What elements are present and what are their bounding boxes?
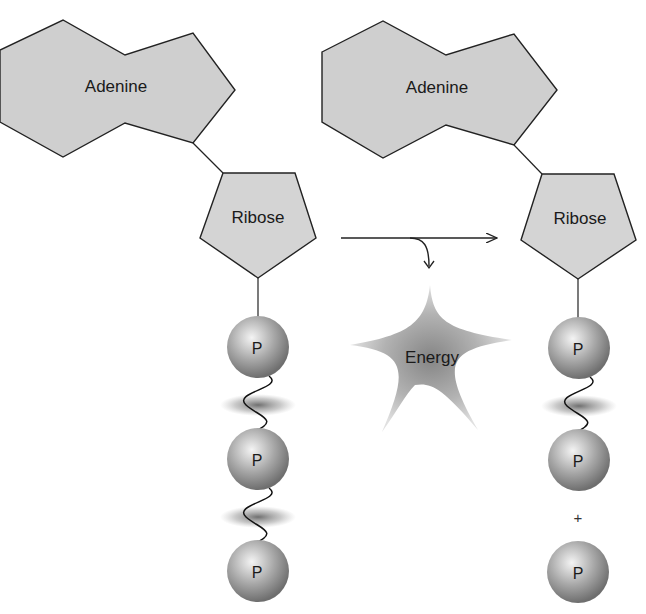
- adenine-ribose-bond-left: [193, 143, 223, 173]
- adenine-ribose-bond-right: [514, 145, 542, 174]
- ribose-label-right: Ribose: [554, 209, 607, 229]
- reaction-arrow: [341, 238, 497, 268]
- adenine-label-right: Adenine: [406, 78, 468, 98]
- free-phosphate-label: P: [573, 565, 584, 583]
- energy-label: Energy: [405, 348, 459, 368]
- phosphate-label: P: [252, 340, 263, 358]
- phosphate-label: P: [252, 564, 263, 582]
- plus-sign: +: [574, 509, 583, 526]
- adenine-label-left: Adenine: [85, 77, 147, 97]
- atp-molecule: [0, 20, 316, 602]
- phosphate-label: P: [252, 452, 263, 470]
- adp-molecule: [322, 21, 636, 603]
- phosphate-label: P: [573, 341, 584, 359]
- phosphate-label: P: [573, 453, 584, 471]
- energy-release-arrow-icon: [410, 238, 429, 266]
- ribose-label-left: Ribose: [232, 208, 285, 228]
